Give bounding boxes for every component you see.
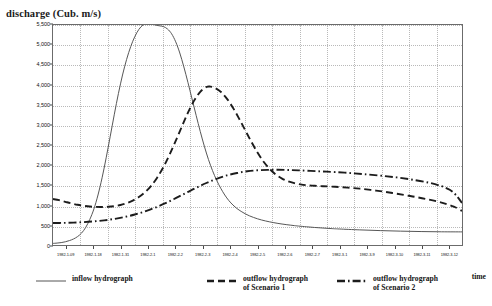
x-tick-label: 1982-2-3 [195, 252, 210, 257]
x-tick-mark [121, 246, 122, 249]
x-axis-title: time [472, 272, 486, 281]
x-tick-mark [203, 246, 204, 249]
x-tick-mark [395, 246, 396, 249]
x-tick-mark [312, 246, 313, 249]
legend-label: inflow hydrograph [72, 274, 133, 283]
y-tick-label: 5,000 [6, 41, 50, 47]
legend-item: inflow hydrograph [36, 274, 133, 287]
x-tick-label: 1982-2-5 [250, 252, 265, 257]
y-tick-label: 1,500 [6, 182, 50, 188]
x-tick-label: 1982-1-31 [112, 252, 129, 257]
y-axis-title: discharge (Cub. m/s) [6, 8, 101, 19]
x-tick-mark [93, 246, 94, 249]
x-tick-label: 1982-3-11 [413, 252, 430, 257]
x-tick-mark [449, 246, 450, 249]
legend-swatch-solid [36, 275, 66, 287]
x-tick-label: 1982-1-09 [57, 252, 74, 257]
series-line-solid [53, 25, 462, 243]
x-tick-mark [422, 246, 423, 249]
y-tick-label: 4,000 [6, 82, 50, 88]
y-tick-label: 1,000 [6, 203, 50, 209]
legend-label: outflow hydrograph of Scenario 2 [373, 274, 438, 293]
x-tick-mark [367, 246, 368, 249]
x-tick-label: 1982-3-10 [386, 252, 403, 257]
plot-area [52, 24, 463, 246]
x-tick-label: 1982-2-1 [140, 252, 155, 257]
y-tick-label: 4,500 [6, 61, 50, 67]
y-tick-label: 3,500 [6, 102, 50, 108]
y-tick-label: 0 [6, 243, 50, 249]
series-line-dashdot [53, 170, 462, 223]
x-tick-label: 1982-2-7 [305, 252, 320, 257]
chart-legend: time inflow hydrographoutflow hydrograph… [0, 272, 492, 302]
curves-layer [53, 25, 462, 245]
x-tick-label: 1982-3-9 [360, 252, 375, 257]
x-tick-mark [285, 246, 286, 249]
x-tick-label: 1982-2-6 [277, 252, 292, 257]
legend-label: outflow hydrograph of Scenario 1 [243, 274, 308, 293]
x-tick-mark [230, 246, 231, 249]
x-tick-label: 1982-2-2 [168, 252, 183, 257]
x-tick-mark [148, 246, 149, 249]
y-tick-label: 2,500 [6, 142, 50, 148]
hydrograph-chart: discharge (Cub. m/s) 05001,0001,5002,000… [0, 0, 492, 306]
legend-swatch-dashed [207, 275, 237, 287]
x-tick-label: 1982-1-18 [84, 252, 101, 257]
x-tick-mark [340, 246, 341, 249]
y-axis-ticks: 05001,0001,5002,0002,5003,0003,5004,0004… [0, 24, 50, 246]
legend-item: outflow hydrograph of Scenario 1 [207, 274, 308, 293]
series-line-dashed [53, 86, 462, 211]
x-tick-mark [258, 246, 259, 249]
x-tick-label: 1982-2-4 [223, 252, 238, 257]
x-tick-label: 1982-3-12 [441, 252, 458, 257]
y-tick-label: 5,500 [6, 21, 50, 27]
y-tick-label: 2,000 [6, 162, 50, 168]
legend-item: outflow hydrograph of Scenario 2 [337, 274, 438, 293]
x-tick-mark [175, 246, 176, 249]
x-tick-mark [66, 246, 67, 249]
x-axis-ticks: 1982-1-091982-1-181982-1-311982-2-11982-… [52, 246, 463, 262]
x-tick-label: 1982-3-1 [332, 252, 347, 257]
legend-swatch-dashdot [337, 275, 367, 287]
y-tick-label: 500 [6, 223, 50, 229]
y-tick-label: 3,000 [6, 122, 50, 128]
